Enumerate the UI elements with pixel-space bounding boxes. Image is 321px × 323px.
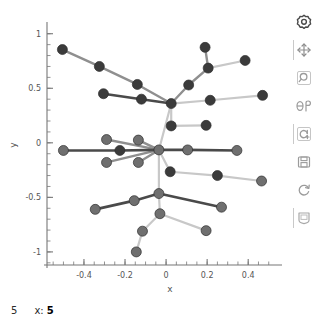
data-point[interactable] (217, 202, 227, 212)
y-axis-label: y (8, 142, 18, 148)
data-point[interactable] (257, 176, 267, 186)
data-point[interactable] (183, 145, 193, 155)
data-point[interactable] (136, 94, 146, 104)
data-point[interactable] (102, 157, 112, 167)
y-tick-label: -1 (33, 248, 41, 257)
data-point[interactable] (200, 42, 210, 52)
x-tick-label: -0.2 (117, 271, 133, 280)
data-point[interactable] (133, 157, 143, 167)
graph-edge (171, 100, 210, 103)
data-point[interactable] (90, 204, 100, 214)
data-point[interactable] (184, 80, 194, 90)
y-tick-label: 0.5 (28, 84, 41, 93)
toolbar-divider (293, 40, 294, 60)
graph-edge (170, 172, 217, 176)
x-tick-label: 0.4 (242, 271, 255, 280)
plot-area[interactable]: -0.4-0.200.20.410.50-0.5-1 x y (0, 0, 285, 300)
y-tick-label: -0.5 (25, 193, 41, 202)
data-point[interactable] (203, 63, 213, 73)
data-point[interactable] (154, 145, 164, 155)
settings-gear-icon[interactable] (292, 10, 316, 34)
copy-clipboard-icon[interactable] (292, 206, 316, 230)
status-x-label: x: (34, 305, 43, 316)
status-bar: 5 x: 5 (0, 301, 321, 319)
x-axis-label: x (167, 284, 173, 294)
plot-widget: -0.4-0.200.20.410.50-0.5-1 x y (0, 0, 321, 323)
x-tick-label: 0.2 (201, 271, 214, 280)
toolbar-divider (293, 208, 294, 228)
graph-edge (95, 201, 134, 210)
pan-move-icon[interactable] (292, 38, 316, 62)
data-point[interactable] (58, 145, 68, 155)
data-point[interactable] (133, 135, 143, 145)
data-point[interactable] (94, 61, 104, 71)
data-point[interactable] (232, 145, 242, 155)
data-point[interactable] (154, 189, 164, 199)
data-point[interactable] (166, 99, 176, 109)
graph-edge (188, 150, 237, 151)
graph-edge (120, 150, 159, 151)
status-index: 5 (11, 305, 17, 316)
data-point[interactable] (205, 95, 215, 105)
data-point[interactable] (166, 121, 176, 131)
graph-edge (107, 140, 159, 150)
scatter-plot-svg[interactable]: -0.4-0.200.20.410.50-0.5-1 x y (0, 0, 285, 300)
refresh-icon[interactable] (292, 178, 316, 202)
graph-edge (99, 66, 137, 84)
data-point[interactable] (258, 90, 268, 100)
data-point[interactable] (155, 209, 165, 219)
data-point[interactable] (129, 196, 139, 206)
graph-edge (159, 194, 222, 208)
data-point[interactable] (212, 171, 222, 181)
graph-edge (210, 95, 262, 100)
graph-edge (160, 214, 206, 231)
reset-zoom-icon[interactable] (292, 122, 316, 146)
data-point[interactable] (201, 120, 211, 130)
zoom-search-icon[interactable] (292, 66, 316, 90)
y-tick-label: 0 (36, 139, 41, 148)
data-point[interactable] (165, 167, 175, 177)
data-point[interactable] (131, 247, 141, 257)
graph-edge (217, 176, 261, 181)
data-point[interactable] (115, 145, 125, 155)
toolbar-divider (293, 124, 294, 144)
graph-edge (62, 50, 99, 67)
data-point[interactable] (201, 226, 211, 236)
data-point[interactable] (57, 45, 67, 55)
data-point[interactable] (102, 135, 112, 145)
status-x-value: 5 (47, 305, 54, 316)
plot-toolbar[interactable] (289, 8, 319, 232)
data-point[interactable] (137, 226, 147, 236)
x-tick-label: -0.4 (76, 271, 92, 280)
graph-edge (107, 150, 159, 163)
graph-edge (103, 94, 141, 99)
data-point[interactable] (98, 89, 108, 99)
data-point[interactable] (132, 79, 142, 89)
rotate-theta-icon[interactable] (292, 94, 316, 118)
x-tick-label: 0 (164, 271, 169, 280)
y-tick-label: 1 (36, 30, 41, 39)
save-disk-icon[interactable] (292, 150, 316, 174)
graph-edge (208, 60, 245, 68)
data-point[interactable] (240, 55, 250, 65)
